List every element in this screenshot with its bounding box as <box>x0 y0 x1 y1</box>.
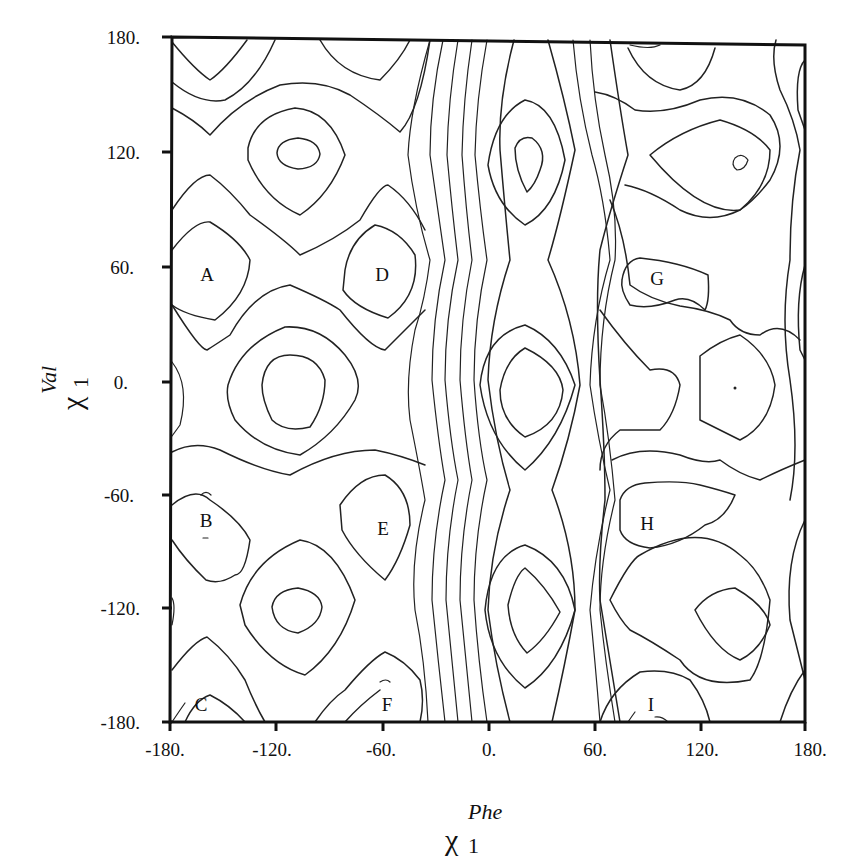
x-tick-label: 0. <box>482 739 496 760</box>
y-tick-labels: 180. 120. 60. 0. -60. -120. -180. <box>100 27 140 733</box>
y-axis-label-subscript: 1 <box>68 377 93 388</box>
region-label-b: B <box>200 510 213 531</box>
region-label-c: C <box>195 694 208 715</box>
contour-lines <box>172 40 430 722</box>
y-axis-label-symbol: χ <box>55 396 88 411</box>
x-tick-label: -60. <box>366 739 396 760</box>
y-axis-label: χ 1 Val <box>36 366 93 411</box>
region-label-a: A <box>200 264 214 285</box>
region-label-h: H <box>640 513 654 534</box>
y-tick-label: -120. <box>100 598 140 619</box>
x-axis-label-superscript: Phe <box>467 799 502 824</box>
region-label-g: G <box>650 268 664 289</box>
y-tick-label: -180. <box>100 712 140 733</box>
y-tick-label: 120. <box>107 142 140 163</box>
region-label-i: I <box>648 694 654 715</box>
x-tick-label: 180. <box>793 739 826 760</box>
x-axis-label: χ 1 Phe <box>444 799 502 858</box>
region-label-d: D <box>375 264 389 285</box>
x-tick-label: -120. <box>252 739 292 760</box>
x-tick-labels: -180. -120. -60. 0. 60. 120. 180. <box>145 739 826 760</box>
dense-contour-band <box>408 40 628 722</box>
x-axis-label-symbol: χ <box>444 823 459 856</box>
y-tick-label: 0. <box>114 372 128 393</box>
x-axis-label-subscript: 1 <box>468 833 479 858</box>
x-tick-label: -180. <box>145 739 185 760</box>
contour-chart: 180. 120. 60. 0. -60. -120. -180. -180. … <box>0 0 844 863</box>
x-tick-label: 60. <box>583 739 607 760</box>
region-label-e: E <box>377 518 389 539</box>
y-tick-label: 60. <box>110 257 134 278</box>
region-label-f: F <box>382 694 393 715</box>
y-axis-label-superscript: Val <box>36 366 61 394</box>
y-tick-label: -60. <box>104 485 134 506</box>
x-tick-label: 120. <box>685 739 718 760</box>
y-tick-label: 180. <box>107 27 140 48</box>
